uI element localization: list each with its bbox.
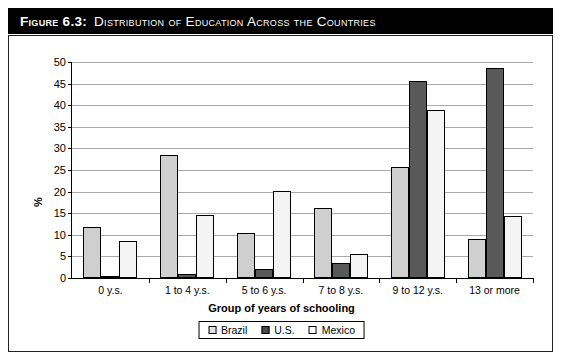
y-axis-tick-mark xyxy=(68,148,72,149)
bar xyxy=(409,81,427,278)
legend-label: Mexico xyxy=(322,324,355,336)
y-axis-tick-mark xyxy=(68,84,72,85)
bar-chart: % 05101520253035404550 0 y.s.1 to 4 y.s.… xyxy=(9,36,554,353)
figure-caption: Distribution of Education Across the Cou… xyxy=(94,14,376,29)
x-axis-category-label: 9 to 12 y.s. xyxy=(392,284,443,296)
bar xyxy=(332,263,350,278)
bar xyxy=(83,227,101,278)
bar-group xyxy=(237,62,291,278)
bar xyxy=(350,254,368,278)
bar xyxy=(237,233,255,278)
legend-swatch-icon xyxy=(309,326,317,334)
y-axis-tick-mark xyxy=(68,62,72,63)
legend-item: U.S. xyxy=(261,324,294,336)
y-axis-tick-label: 25 xyxy=(54,165,66,176)
bar xyxy=(101,276,119,278)
y-axis-tick-mark xyxy=(68,235,72,236)
y-axis-tick-label: 5 xyxy=(60,251,66,262)
y-axis-tick-label: 30 xyxy=(54,143,66,154)
gridline xyxy=(72,62,533,63)
legend-label: U.S. xyxy=(274,324,294,336)
bar xyxy=(504,216,522,278)
y-axis-tick-label: 40 xyxy=(54,100,66,111)
bar xyxy=(273,191,291,278)
x-axis-tick-mark xyxy=(226,278,227,283)
legend-swatch-icon xyxy=(208,326,216,334)
y-axis-tick-mark xyxy=(68,105,72,106)
bar xyxy=(196,215,214,278)
bar-group xyxy=(160,62,214,278)
x-axis-tick-mark xyxy=(456,278,457,283)
x-axis-tick-mark xyxy=(379,278,380,283)
bar xyxy=(178,274,196,278)
y-axis-tick-label: 45 xyxy=(54,78,66,89)
y-axis-tick-label: 35 xyxy=(54,121,66,132)
gridline xyxy=(72,148,533,149)
figure-frame: % 05101520253035404550 0 y.s.1 to 4 y.s.… xyxy=(8,35,553,352)
bar xyxy=(486,68,504,278)
y-axis-tick-label: 50 xyxy=(54,57,66,68)
figure-number: Figure 6.3: xyxy=(20,14,87,29)
gridline xyxy=(72,235,533,236)
bar-group xyxy=(468,62,522,278)
bar-group xyxy=(83,62,137,278)
legend-swatch-icon xyxy=(261,326,269,334)
x-axis-category-label: 1 to 4 y.s. xyxy=(165,284,210,296)
bar-group xyxy=(314,62,368,278)
gridline xyxy=(72,213,533,214)
bar xyxy=(255,269,273,278)
legend-item: Mexico xyxy=(309,324,355,336)
bar-group xyxy=(391,62,445,278)
bar xyxy=(160,155,178,278)
gridline xyxy=(72,170,533,171)
x-axis-tick-mark xyxy=(149,278,150,283)
bar xyxy=(427,110,445,278)
gridline xyxy=(72,84,533,85)
gridline xyxy=(72,192,533,193)
bar xyxy=(468,239,486,278)
x-axis-tick-mark xyxy=(303,278,304,283)
x-axis-category-label: 5 to 6 y.s. xyxy=(242,284,287,296)
y-axis-tick-mark xyxy=(68,278,72,279)
y-axis-tick-label: 15 xyxy=(54,208,66,219)
y-axis-tick-mark xyxy=(68,256,72,257)
chart-legend: BrazilU.S.Mexico xyxy=(198,321,365,339)
x-axis-tick-mark xyxy=(533,278,534,283)
x-axis-category-label: 13 or more xyxy=(469,284,520,296)
y-axis-tick-mark xyxy=(68,192,72,193)
gridline xyxy=(72,256,533,257)
y-axis-tick-mark xyxy=(68,127,72,128)
bar xyxy=(391,167,409,278)
bar xyxy=(314,208,332,278)
x-axis-category-label: 0 y.s. xyxy=(98,284,122,296)
y-axis-tick-label: 20 xyxy=(54,186,66,197)
figure-title-bar: Figure 6.3: Distribution of Education Ac… xyxy=(8,8,553,34)
y-axis-tick-mark xyxy=(68,213,72,214)
x-axis-label: Group of years of schooling xyxy=(9,302,554,314)
legend-item: Brazil xyxy=(208,324,247,336)
x-axis-category-label: 7 to 8 y.s. xyxy=(319,284,364,296)
y-axis-tick-label: 0 xyxy=(60,273,66,284)
bar xyxy=(119,241,137,278)
y-axis-tick-label: 10 xyxy=(54,229,66,240)
gridline xyxy=(72,105,533,106)
gridline xyxy=(72,127,533,128)
legend-label: Brazil xyxy=(221,324,247,336)
plot-area: 05101520253035404550 0 y.s.1 to 4 y.s.5 … xyxy=(71,62,533,279)
y-axis-tick-mark xyxy=(68,170,72,171)
y-axis-label: % xyxy=(32,197,44,207)
